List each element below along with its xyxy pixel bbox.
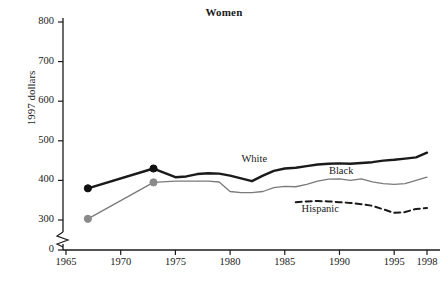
series-marker-white — [150, 165, 157, 172]
x-tick-label: 1985 — [265, 256, 305, 267]
x-tick-label: 1990 — [319, 256, 359, 267]
x-tick-label: 1970 — [101, 256, 141, 267]
series-label-white: White — [241, 153, 267, 164]
y-tick-label: 0 — [18, 244, 54, 254]
series-label-hispanic: Hispanic — [302, 203, 339, 214]
series-marker-black — [84, 215, 91, 222]
series-label-black: Black — [329, 165, 354, 176]
y-tick-label: 500 — [18, 135, 54, 145]
series-line-black — [88, 177, 427, 219]
chart-container: Women 1997 dollars 030040050060070080019… — [0, 0, 448, 287]
x-tick-label: 1975 — [155, 256, 195, 267]
series-marker-black — [150, 179, 157, 186]
y-tick-label: 300 — [18, 214, 54, 224]
y-tick-label: 700 — [18, 56, 54, 66]
x-tick-label: 1998 — [407, 256, 447, 267]
y-tick-label: 800 — [18, 16, 54, 26]
x-tick-label: 1965 — [46, 256, 86, 267]
x-tick-label: 1980 — [210, 256, 250, 267]
series-marker-white — [84, 185, 91, 192]
chart-plot-area — [0, 0, 448, 287]
y-tick-label: 400 — [18, 174, 54, 184]
y-tick-label: 600 — [18, 95, 54, 105]
